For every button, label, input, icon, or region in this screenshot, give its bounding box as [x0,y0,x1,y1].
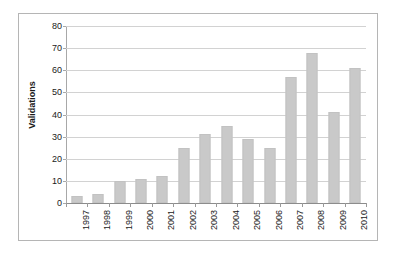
x-tick-label: 2008 [316,210,326,230]
x-tick-mark [302,203,303,207]
bar-slot [87,26,108,203]
x-tick-label: 2002 [188,210,198,230]
x-tick-mark [66,203,67,207]
bar [93,194,104,203]
x-tick-label: 2003 [209,210,219,230]
y-tick-label: 70 [52,43,62,53]
x-tick-label: 1998 [102,210,112,230]
y-tick-label: 0 [57,198,62,208]
bar [221,126,232,203]
x-tick-mark [366,203,367,207]
bar-slot [173,26,194,203]
x-tick-mark [259,203,260,207]
x-tick-label: 2006 [274,210,284,230]
bar [328,112,339,203]
bar [350,68,361,203]
y-tick-label: 50 [52,87,62,97]
x-tick-mark [130,203,131,207]
x-tick-label: 1997 [81,210,91,230]
bar [200,134,211,203]
x-tick-label: 2004 [231,210,241,230]
bar-slot [130,26,151,203]
x-tick-mark [345,203,346,207]
bar-slot [195,26,216,203]
y-tick-label: 10 [52,176,62,186]
y-axis-title-label: Validations [27,81,37,129]
x-tick-label: 2010 [359,210,369,230]
bar [264,148,275,203]
bar [135,179,146,203]
bar [307,53,318,203]
x-tick-mark [109,203,110,207]
bar-slot [302,26,323,203]
x-tick-mark [195,203,196,207]
x-tick-mark [152,203,153,207]
chart-figure: Validations 01020304050607080 1997199819… [18,13,378,241]
bar-slot [109,26,130,203]
x-tick-mark [173,203,174,207]
bar-slot [280,26,301,203]
x-tick-label: 1999 [124,210,134,230]
plot-area: 01020304050607080 1997199819992000200120… [66,26,366,203]
bar-slot [259,26,280,203]
bar [71,196,82,203]
bar-slot [323,26,344,203]
bar-slot [216,26,237,203]
y-tick-label: 20 [52,154,62,164]
x-tick-label: 2007 [295,210,305,230]
y-tick-label: 40 [52,110,62,120]
x-tick-mark [323,203,324,207]
y-tick-label: 60 [52,65,62,75]
bar [114,181,125,203]
bar [285,77,296,203]
x-tick-label: 2001 [166,210,176,230]
bar [178,148,189,203]
x-tick-label: 2000 [145,210,155,230]
y-tick-label: 80 [52,21,62,31]
bar-slot [237,26,258,203]
x-tick-mark [216,203,217,207]
bar [243,139,254,203]
x-tick-label: 2005 [252,210,262,230]
y-axis-title: Validations [23,14,41,196]
x-tick-mark [87,203,88,207]
y-tick-label: 30 [52,132,62,142]
bar-slot [66,26,87,203]
x-tick-mark [237,203,238,207]
x-tick-mark [280,203,281,207]
bar-slot [345,26,366,203]
bar [157,176,168,203]
x-tick-label: 2009 [338,210,348,230]
bar-slot [152,26,173,203]
